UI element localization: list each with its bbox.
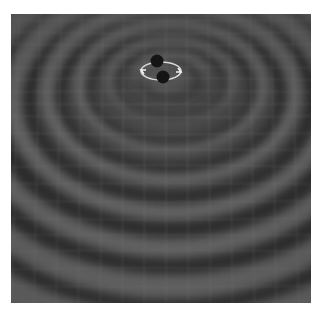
gravitational-wave-illustration bbox=[11, 14, 311, 303]
black-hole-2 bbox=[157, 71, 170, 84]
black-hole-1 bbox=[151, 55, 164, 68]
spacetime-scene bbox=[11, 14, 311, 303]
